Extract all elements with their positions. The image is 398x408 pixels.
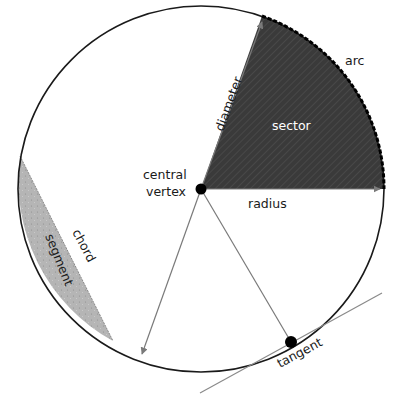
arc-label: arc: [345, 53, 365, 68]
central-vertex-point: [196, 184, 207, 195]
central-vertex-label-2: vertex: [146, 184, 186, 199]
tangent-label: tangent: [274, 334, 324, 370]
radius-arrow-lower: [142, 189, 201, 354]
central-vertex-label-1: central: [143, 167, 187, 182]
sector-label: sector: [272, 118, 312, 133]
radius-label: radius: [248, 196, 287, 211]
circle-diagram: arc diameter sector central vertex radiu…: [0, 0, 398, 408]
radius-to-tangent: [201, 189, 291, 342]
chord-label: chord: [69, 226, 99, 264]
